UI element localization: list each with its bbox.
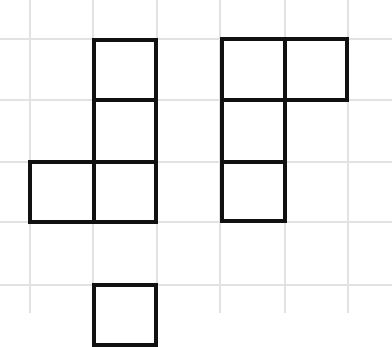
polyomino-cell bbox=[92, 38, 158, 102]
polyomino-cell bbox=[220, 160, 287, 223]
grid-line-horizontal bbox=[0, 284, 392, 286]
polyomino-cell bbox=[92, 98, 158, 164]
polyomino-cell bbox=[220, 98, 287, 164]
polyomino-cell bbox=[220, 37, 287, 102]
polyomino-cell bbox=[92, 160, 158, 224]
grid-line-vertical bbox=[29, 0, 31, 313]
polyomino-cell bbox=[283, 37, 349, 102]
polyomino-cell bbox=[28, 160, 96, 224]
polyomino-cell bbox=[92, 283, 158, 347]
